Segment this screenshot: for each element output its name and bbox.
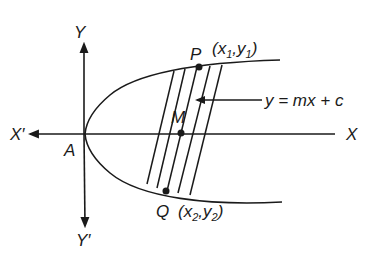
point-m-label: M: [171, 108, 186, 127]
y-axis-label: Y: [74, 23, 87, 42]
point-q: [163, 188, 170, 195]
point-p: [196, 64, 203, 71]
x-prime-axis-label: X′: [9, 125, 25, 144]
point-q-coords: (x2,y2): [178, 202, 223, 223]
parallel-chords: [147, 65, 222, 195]
y-axis-down: [84, 134, 85, 226]
point-p-coords: (x1,y1): [212, 39, 257, 60]
x-axis-label: X: [345, 125, 358, 144]
origin-label-a: A: [63, 141, 75, 160]
parabola-diagram: Y Y′ X X′ A P M Q (x1,y1) (x2,y2) y = mx…: [0, 0, 378, 260]
point-p-label: P: [190, 45, 202, 64]
chord-equation: y = mx + c: [264, 91, 344, 110]
point-m: [178, 130, 185, 137]
point-q-label: Q: [156, 202, 169, 221]
y-prime-axis-label: Y′: [76, 231, 91, 250]
